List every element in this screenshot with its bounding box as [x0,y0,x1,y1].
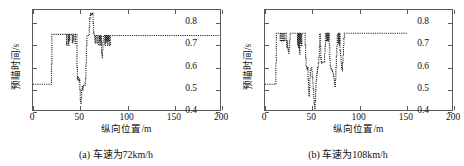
y-tick-label-b-0: 0.4 [417,106,429,116]
panel-caption-b: (b) 车速为108km/h [232,146,464,161]
x-tick-top-a-1 [80,10,81,14]
y-tick-label-a-3: 0.7 [185,40,197,50]
x-tick-a-1 [80,106,81,110]
x-tick-label-a-1: 50 [75,113,85,123]
y-tick-a-1 [33,90,37,91]
x-tick-label-a-3: 150 [167,113,181,123]
x-tick-top-a-4 [222,10,223,14]
y-tick-right-a-1 [216,90,220,91]
x-tick-b-3 [407,106,408,110]
x-tick-top-b-4 [454,10,455,14]
x-tick-top-b-3 [407,10,408,14]
y-tick-a-2 [33,68,37,69]
x-tick-a-2 [128,106,129,110]
x-tick-b-0 [265,106,266,110]
x-tick-label-b-1: 50 [307,113,317,123]
y-tick-right-a-3 [216,45,220,46]
y-tick-label-a-1: 0.5 [185,84,197,94]
y-axis-title-b: 预瞄时间/s [240,22,254,112]
y-tick-right-b-4 [448,23,452,24]
x-tick-label-a-4: 200 [214,113,228,123]
y-tick-label-a-2: 0.6 [185,62,197,72]
y-tick-right-b-1 [448,90,452,91]
y-tick-a-3 [33,45,37,46]
y-tick-label-b-4: 0.8 [417,18,429,28]
chart-panel-a: 0.40.50.60.70.8050100150200 纵向位置/m 预瞄时间/… [0,0,232,166]
x-tick-top-a-2 [128,10,129,14]
x-tick-label-b-3: 150 [399,113,413,123]
y-tick-b-2 [265,68,269,69]
x-tick-b-2 [360,106,361,110]
y-tick-label-b-3: 0.7 [417,40,429,50]
x-tick-a-4 [222,106,223,110]
y-tick-label-a-0: 0.4 [185,106,197,116]
y-tick-b-1 [265,90,269,91]
figure-container: 0.40.50.60.70.8050100150200 纵向位置/m 预瞄时间/… [0,0,464,166]
y-tick-b-3 [265,45,269,46]
y-tick-a-4 [33,23,37,24]
x-tick-b-4 [454,106,455,110]
x-tick-top-a-0 [33,10,34,14]
y-tick-right-b-2 [448,68,452,69]
x-tick-top-b-2 [360,10,361,14]
x-axis-title-b: 纵向位置/m [264,124,453,134]
x-tick-label-a-0: 0 [30,113,35,123]
x-tick-top-a-3 [175,10,176,14]
y-tick-label-b-2: 0.6 [417,62,429,72]
y-tick-right-a-2 [216,68,220,69]
x-tick-b-1 [312,106,313,110]
panel-caption-a: (a) 车速为72km/h [0,146,232,161]
y-tick-b-4 [265,23,269,24]
x-tick-a-0 [33,106,34,110]
data-series-b-0 [265,33,407,108]
y-tick-right-b-3 [448,45,452,46]
y-tick-label-a-4: 0.8 [185,18,197,28]
x-tick-label-a-2: 100 [119,113,133,123]
x-tick-label-b-4: 200 [446,113,460,123]
x-axis-title-a: 纵向位置/m [32,124,221,134]
x-tick-label-b-0: 0 [262,113,267,123]
x-tick-a-3 [175,106,176,110]
y-axis-title-a: 预瞄时间/s [8,22,22,112]
x-tick-label-b-2: 100 [351,113,365,123]
chart-panel-b: 0.40.50.60.70.8050100150200 纵向位置/m 预瞄时间/… [232,0,464,166]
y-tick-right-a-4 [216,23,220,24]
x-tick-top-b-0 [265,10,266,14]
x-tick-top-b-1 [312,10,313,14]
y-tick-label-b-1: 0.5 [417,84,429,94]
